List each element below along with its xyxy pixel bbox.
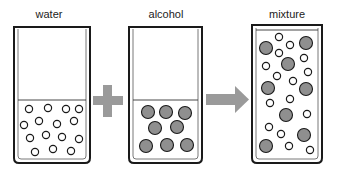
water-particle (26, 134, 33, 141)
water-particle (53, 120, 60, 127)
water-particle (300, 54, 307, 61)
water-particle (75, 135, 82, 142)
water-label: water (35, 8, 63, 20)
right-arrow-icon (206, 86, 249, 113)
water-particle (273, 72, 280, 79)
water-alcohol-mixing-diagram: water alcohol mixture (0, 0, 342, 172)
alcohol-particle (140, 140, 153, 153)
water-particle (25, 105, 32, 112)
water-particle (44, 104, 51, 111)
plus-icon (93, 85, 123, 117)
alcohol-particle (260, 42, 273, 55)
water-particle (75, 105, 82, 112)
water-particle (265, 123, 272, 130)
water-particle (70, 117, 77, 124)
water-beaker (14, 27, 90, 163)
alcohol-particle (262, 82, 275, 95)
water-particle (275, 49, 282, 56)
mixture-label: mixture (269, 8, 305, 20)
alcohol-particle (179, 107, 192, 120)
alcohol-particle (260, 140, 273, 153)
water-particle (49, 145, 56, 152)
water-particle (266, 99, 273, 106)
water-particle (306, 146, 313, 153)
alcohol-particle (161, 139, 174, 152)
water-particle (62, 105, 69, 112)
water-particle (42, 131, 49, 138)
water-particle (262, 62, 269, 69)
water-particle (67, 147, 74, 154)
water-particle (31, 148, 38, 155)
water-particle (304, 68, 311, 75)
water-particle (286, 95, 293, 102)
water-particle (275, 33, 282, 40)
alcohol-particle (298, 129, 311, 142)
alcohol-beaker (129, 27, 202, 163)
alcohol-particle (280, 109, 293, 122)
water-particle (285, 142, 292, 149)
water-particle (277, 130, 284, 137)
water-particle (35, 117, 42, 124)
alcohol-label: alcohol (149, 8, 184, 20)
alcohol-particle (149, 122, 162, 135)
water-particle (20, 121, 27, 128)
alcohol-particle (171, 121, 184, 134)
water-particle (303, 110, 310, 117)
alcohol-particle (282, 58, 295, 71)
alcohol-particle (300, 83, 313, 96)
alcohol-particle (160, 106, 173, 119)
alcohol-particle (142, 106, 155, 119)
mixture-beaker (252, 25, 322, 163)
water-particle (286, 41, 293, 48)
alcohol-particle (181, 139, 194, 152)
water-particle (289, 77, 296, 84)
alcohol-particle (300, 37, 313, 50)
water-particle (58, 133, 65, 140)
